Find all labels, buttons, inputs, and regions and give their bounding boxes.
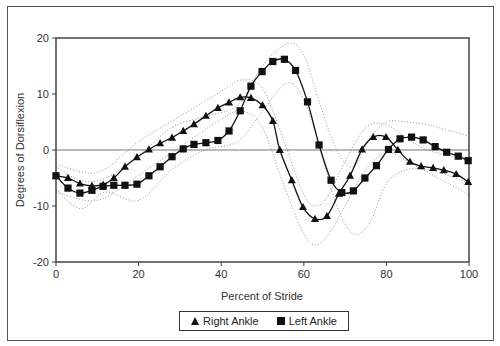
square-data-point <box>350 187 357 194</box>
y-tick-label: 0 <box>43 144 49 156</box>
y-axis-title: Degrees of Dorsiflexion <box>14 93 26 207</box>
triangle-data-point <box>299 203 307 210</box>
square-data-point <box>396 135 403 142</box>
square-data-point <box>281 56 288 63</box>
square-data-point <box>258 68 265 75</box>
square-data-point <box>432 143 439 150</box>
square-data-point <box>385 146 392 153</box>
square-data-point <box>443 149 450 156</box>
x-tick-label: 40 <box>215 268 227 280</box>
triangle-data-point <box>133 153 141 160</box>
triangle-data-point <box>168 133 176 140</box>
square-data-point <box>99 183 106 190</box>
triangle-data-point <box>190 120 198 127</box>
x-tick-label: 0 <box>53 268 59 280</box>
x-tick-label: 60 <box>298 268 310 280</box>
square-data-point <box>465 157 472 164</box>
square-data-point <box>202 139 209 146</box>
triangle-data-point <box>145 145 153 152</box>
square-data-point <box>52 172 59 179</box>
triangle-data-point <box>214 104 222 111</box>
square-data-point <box>133 181 140 188</box>
y-tick-label: -10 <box>33 200 49 212</box>
square-data-point <box>237 107 244 114</box>
triangle-data-point <box>311 215 319 222</box>
x-tick-label: 100 <box>460 268 478 280</box>
square-data-point <box>327 177 334 184</box>
x-axis-title: Percent of Stride <box>221 290 303 302</box>
triangle-data-point <box>276 146 284 153</box>
x-tick-label: 80 <box>380 268 392 280</box>
normal-range-band-line <box>56 43 469 182</box>
triangle-data-point <box>225 98 233 105</box>
data-series <box>52 56 472 222</box>
chart-legend: Right Ankle Left Ankle <box>179 311 349 331</box>
y-tick-label: 10 <box>37 88 49 100</box>
square-data-point <box>110 182 117 189</box>
x-tick-label: 20 <box>132 268 144 280</box>
triangle-data-point <box>156 139 164 146</box>
y-tick-label: -20 <box>33 256 49 268</box>
square-data-point <box>292 67 299 74</box>
square-data-point <box>225 127 232 134</box>
square-data-point <box>168 153 175 160</box>
square-data-point <box>269 58 276 65</box>
series-right-ankle <box>52 93 472 222</box>
triangle-data-point <box>346 172 354 179</box>
square-marker-icon <box>277 317 285 325</box>
square-data-point <box>156 163 163 170</box>
square-data-point <box>455 153 462 160</box>
square-data-point <box>145 172 152 179</box>
normal-range-band-line <box>56 80 469 206</box>
square-data-point <box>64 184 71 191</box>
y-tick-label: 20 <box>37 32 49 44</box>
square-data-point <box>338 189 345 196</box>
square-data-point <box>180 145 187 152</box>
y-axis: -20-1001020 <box>33 32 56 268</box>
triangle-data-point <box>464 178 472 185</box>
legend-item-right-ankle: Right Ankle <box>191 315 259 327</box>
chart-plot: -20-1001020 020406080100 Percent of Stri… <box>0 0 500 346</box>
square-data-point <box>315 141 322 148</box>
triangle-marker-icon <box>191 317 199 325</box>
triangle-data-point <box>179 127 187 134</box>
square-data-point <box>408 134 415 141</box>
legend-label-right-ankle: Right Ankle <box>203 315 259 327</box>
square-data-point <box>247 83 254 90</box>
square-data-point <box>88 187 95 194</box>
normal-range-band-line <box>56 111 469 246</box>
x-axis: 020406080100 <box>53 262 478 280</box>
square-data-point <box>76 190 83 197</box>
square-data-point <box>121 182 128 189</box>
square-data-point <box>420 136 427 143</box>
square-data-point <box>214 137 221 144</box>
square-data-point <box>190 141 197 148</box>
square-data-point <box>361 174 368 181</box>
legend-label-left-ankle: Left Ankle <box>289 315 337 327</box>
triangle-data-point <box>288 176 296 183</box>
square-data-point <box>304 98 311 105</box>
square-data-point <box>373 162 380 169</box>
triangle-data-point <box>202 112 210 119</box>
legend-item-left-ankle: Left Ankle <box>277 315 337 327</box>
